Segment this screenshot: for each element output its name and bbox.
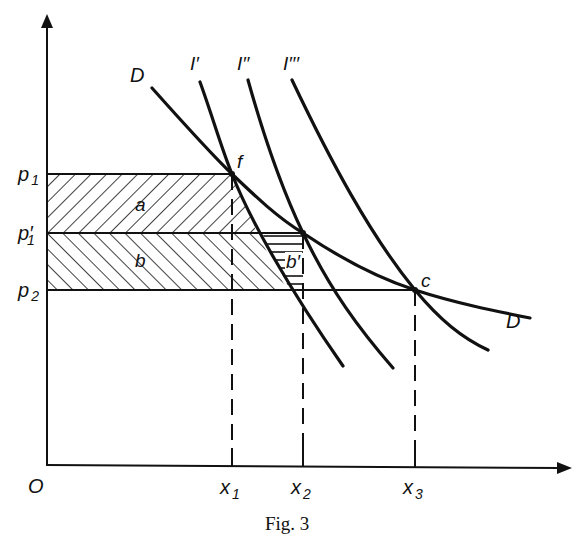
label-indifference-I1: I′ [190, 53, 200, 74]
label-p1prime: p′1 [17, 222, 35, 248]
label-indifference-I3: I′′′ [283, 53, 300, 74]
label-area-a: a [135, 194, 146, 215]
label-x2: x2 [290, 476, 311, 502]
label-p1: p1 [17, 163, 39, 188]
point-c-marker [412, 287, 418, 293]
label-area-b-prime: b′ [286, 251, 302, 272]
x-axis-arrow-icon [557, 462, 572, 474]
point-f-marker [229, 171, 235, 177]
label-area-b: b [135, 250, 146, 271]
indifference-curve-I2 [248, 80, 393, 368]
indifference-curve-I3 [292, 80, 488, 350]
price-discrimination-diagram: D D I′ I′′ I′′′ f c a b b′ p1 p′1 p2 O x… [0, 0, 578, 538]
label-origin: O [28, 475, 44, 497]
area-b-hatch [47, 233, 287, 290]
label-indifference-I2: I′′ [237, 53, 251, 74]
label-p2: p2 [17, 279, 39, 304]
y-axis-arrow-icon [41, 14, 53, 28]
label-demand-top: D [130, 64, 144, 86]
label-point-c: c [421, 270, 431, 291]
area-a-hatch [47, 174, 257, 233]
label-demand-bottom: D [506, 310, 520, 332]
label-point-f: f [237, 151, 244, 172]
figure-caption: Fig. 3 [265, 513, 309, 534]
point-mid-marker [300, 230, 306, 236]
label-x1: x1 [219, 476, 240, 502]
label-x3: x3 [402, 476, 423, 502]
